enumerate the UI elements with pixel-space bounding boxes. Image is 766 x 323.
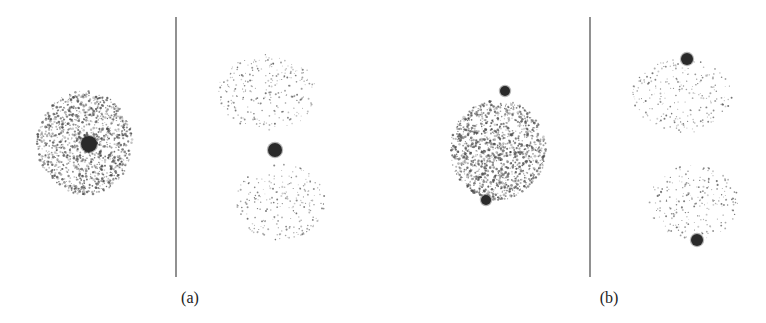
dense-core-blob bbox=[481, 195, 491, 205]
core-blob bbox=[691, 234, 703, 246]
panel-b-label: (b) bbox=[600, 289, 619, 307]
sparse-particle-cluster bbox=[649, 165, 738, 239]
sparse-particle-cluster bbox=[632, 57, 732, 133]
core-blob bbox=[268, 143, 282, 157]
sparse-particle-cluster bbox=[218, 54, 314, 131]
sparse-particle-cluster bbox=[236, 164, 325, 241]
panel-a bbox=[36, 17, 325, 277]
core-blob bbox=[681, 53, 693, 65]
panel-b bbox=[450, 17, 738, 277]
figure-canvas bbox=[0, 0, 766, 323]
dense-particle-cluster bbox=[450, 100, 547, 201]
panel-a-label: (a) bbox=[181, 289, 199, 307]
dense-core-blob bbox=[81, 136, 97, 152]
dense-core-blob bbox=[500, 86, 510, 96]
